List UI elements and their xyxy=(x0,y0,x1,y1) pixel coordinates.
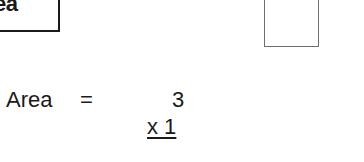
title-label: ea xyxy=(0,0,17,16)
multiplier: x 1 xyxy=(147,115,176,139)
multiplicand: 3 xyxy=(172,88,184,112)
area-label: Area xyxy=(6,88,52,112)
rectangle-figure xyxy=(264,0,319,47)
title-label-box: ea xyxy=(0,0,60,32)
equals-sign: = xyxy=(80,88,93,112)
